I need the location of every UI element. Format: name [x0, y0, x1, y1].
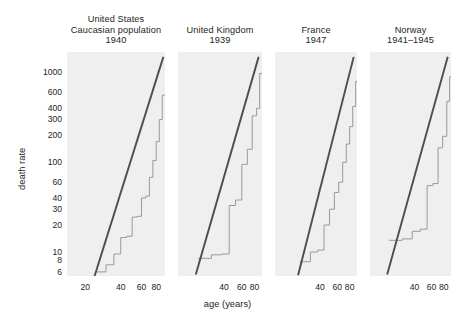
gompertz-fit-line	[387, 57, 448, 275]
x-axis-title: age (years)	[0, 298, 455, 309]
gompertz-mortality-figure: death rate 10006004003002001006040302010…	[0, 0, 455, 329]
series-layer-norway	[0, 0, 455, 329]
